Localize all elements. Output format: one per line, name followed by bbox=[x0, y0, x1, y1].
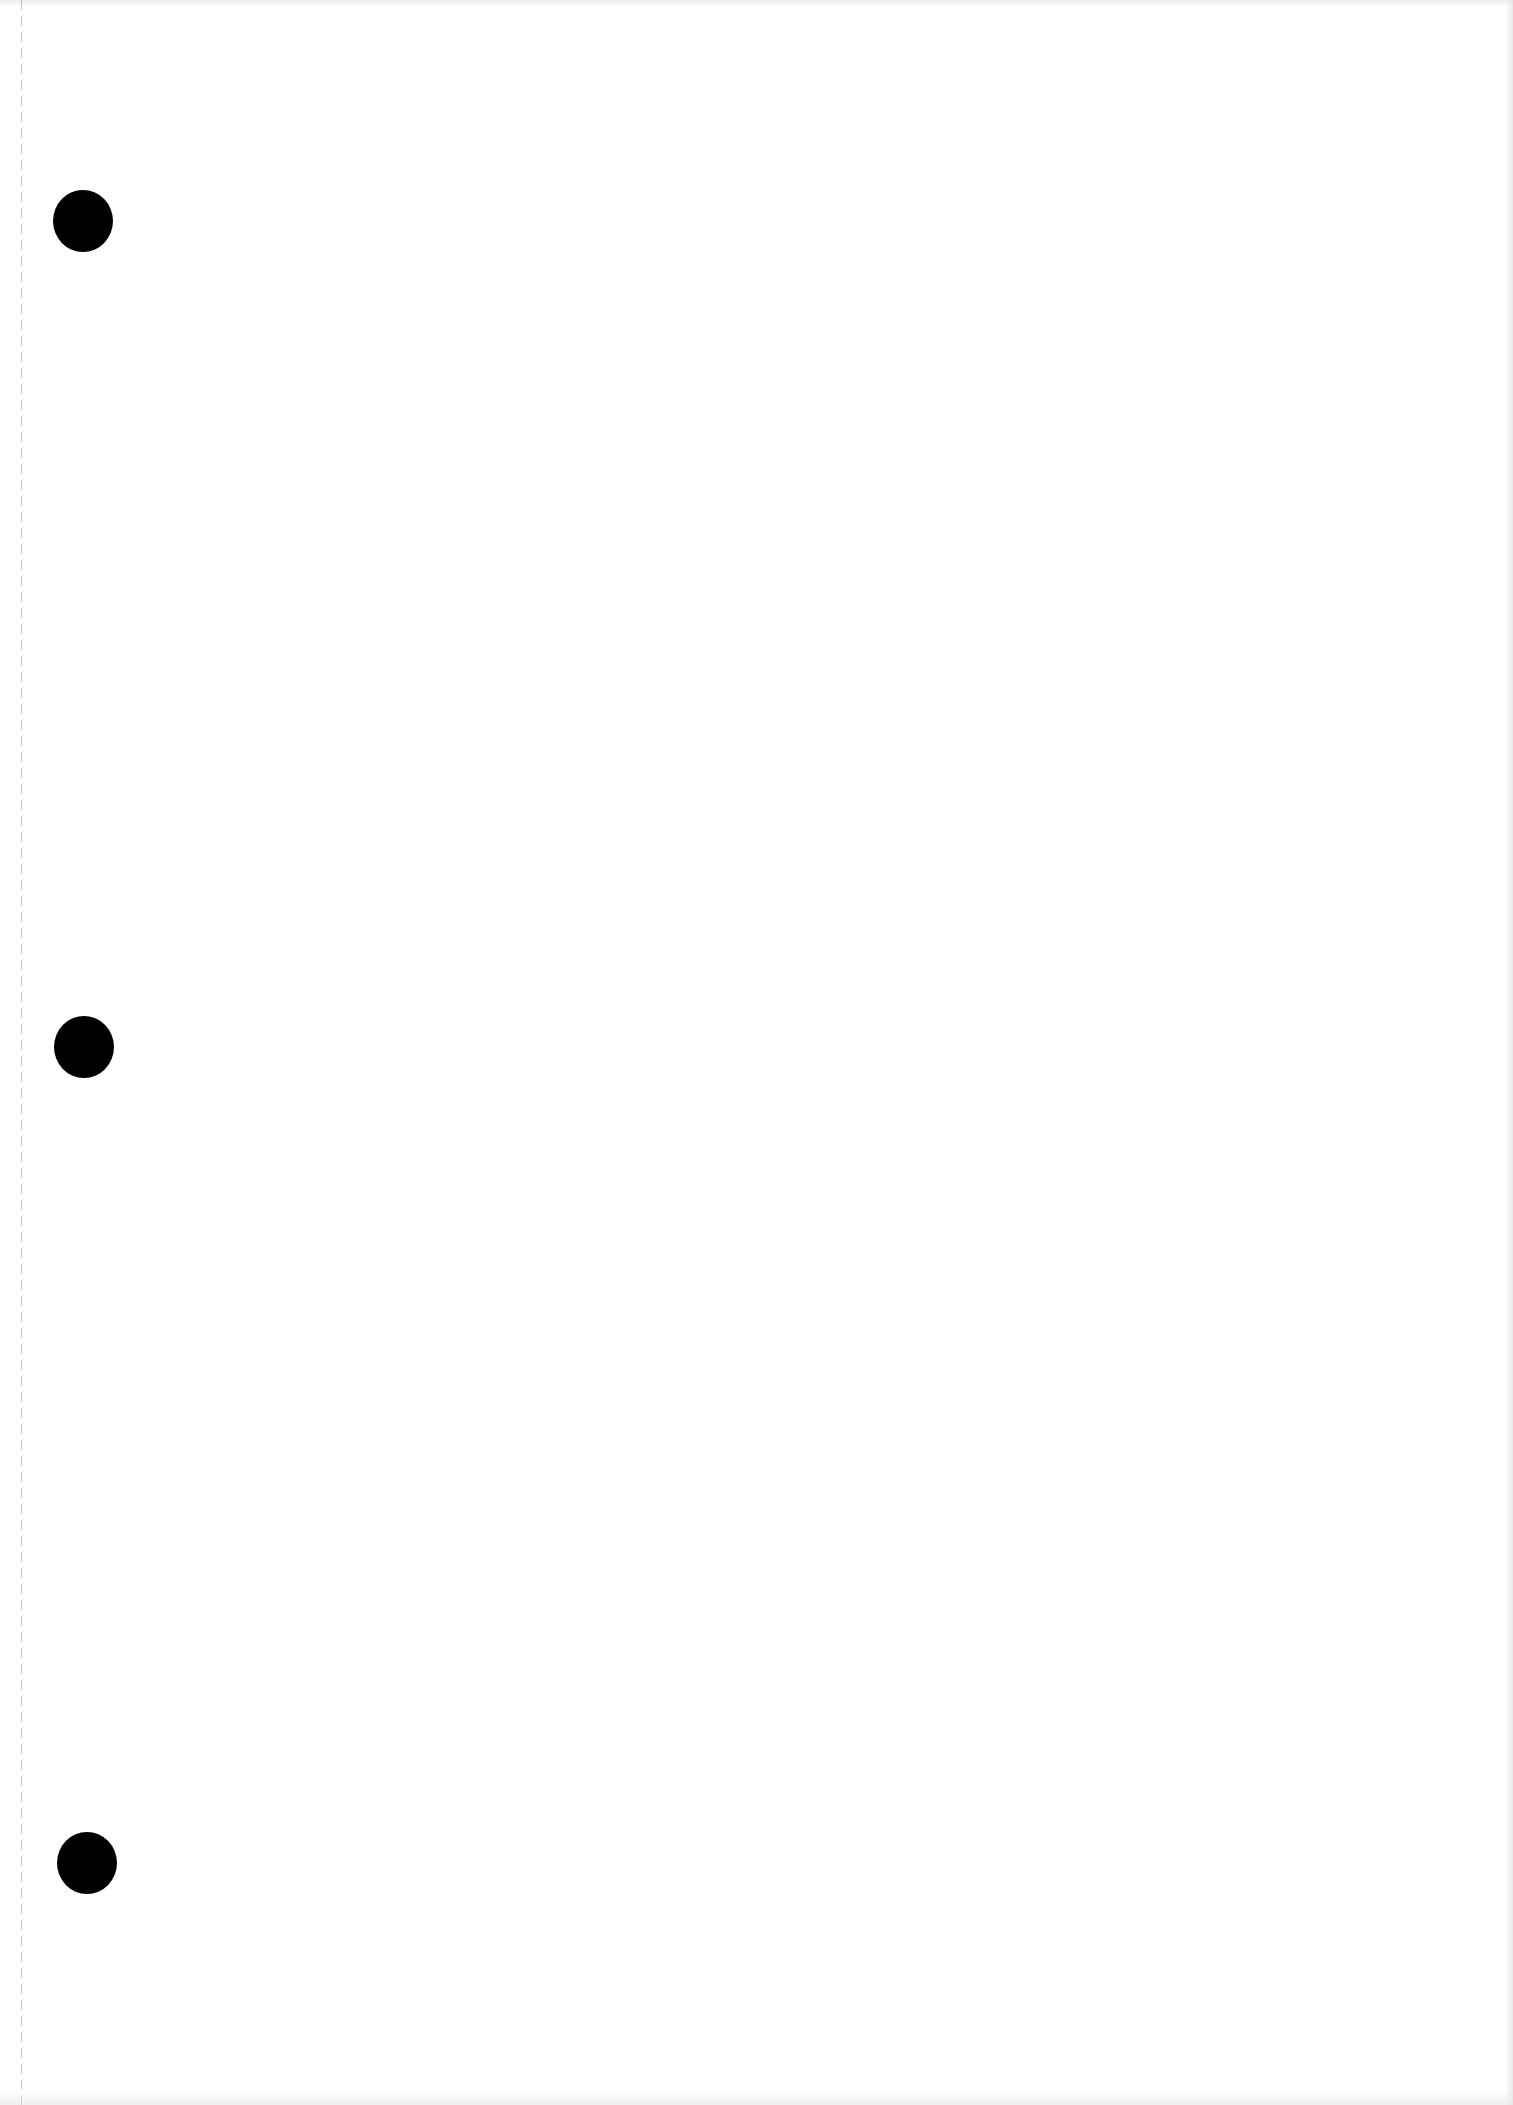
perforation-line bbox=[21, 0, 22, 2105]
scan-edge-top bbox=[0, 0, 1513, 6]
scan-edge-bottom bbox=[0, 2091, 1513, 2105]
punch-hole-bottom bbox=[57, 1832, 117, 1894]
punch-hole-top bbox=[53, 190, 113, 252]
punch-hole-middle bbox=[54, 1016, 114, 1078]
blank-page bbox=[0, 0, 1513, 2105]
scan-edge-right bbox=[1505, 0, 1513, 2105]
